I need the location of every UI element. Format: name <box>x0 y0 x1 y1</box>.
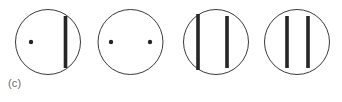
figure-panel-c: (c) <box>0 0 342 102</box>
panel-label: (c) <box>8 78 21 89</box>
circle-1-dot-left <box>29 40 33 44</box>
circle-1-outline <box>16 10 81 75</box>
circle-3-bar-right <box>225 16 229 68</box>
shapes-layer <box>16 10 330 75</box>
circle-1-bar-right <box>64 16 68 68</box>
figure-diagram <box>0 0 342 102</box>
circle-4-outline <box>265 10 330 75</box>
circle-4-bar-right <box>306 16 310 68</box>
circle-1-group <box>16 10 81 75</box>
circle-4-group <box>265 10 330 75</box>
circle-3-outline <box>184 10 249 75</box>
circle-2-dot-left <box>109 40 113 44</box>
circle-2-outline <box>98 10 163 75</box>
circle-2-dot-right <box>148 40 152 44</box>
circle-2-group <box>98 10 163 75</box>
circle-4-bar-left <box>285 16 289 68</box>
circle-3-group <box>184 10 249 75</box>
circle-3-bar-left <box>196 14 200 70</box>
